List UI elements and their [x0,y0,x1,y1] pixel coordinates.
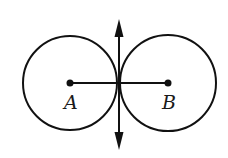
arrow-up-icon [115,19,124,37]
tangent-line [115,19,124,150]
center-point-a [67,80,74,87]
label-b: B [161,91,176,113]
center-point-b [165,80,172,87]
label-a: A [62,91,78,113]
arrow-down-icon [115,132,124,150]
tangent-circles-diagram: A B [0,0,228,158]
